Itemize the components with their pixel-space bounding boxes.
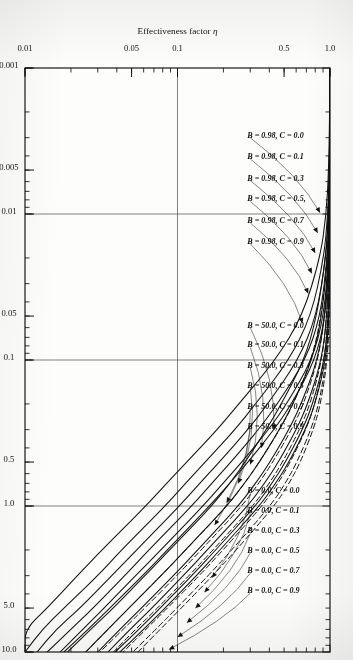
curve-annotation: B = 0.0, C = 0.5 <box>246 546 299 555</box>
x-tick-label: 1.0 <box>4 498 15 508</box>
curve-annotation: B = 0.0, C = 0.9 <box>246 586 299 595</box>
y-tick-label: 1.0 <box>325 43 336 53</box>
chart-svg: 0.0010.0050.010.050.10.51.05.010.01.00.5… <box>0 0 353 660</box>
curve-annotation: B = 0.98, C = 0.5, <box>246 194 305 203</box>
curve-annotation: B = 0.98, C = 0.7 <box>246 216 304 225</box>
curve-annotation: B = 50.0, C = 0.9 <box>246 422 303 431</box>
curve-annotation: B = 50.0, C = 0.1 <box>246 340 303 349</box>
x-tick-label: 0.005 <box>0 162 19 172</box>
curve-annotation: B = 50.0, C = 0.3 <box>246 361 303 370</box>
rotated-figure-container: 0.0010.0050.010.050.10.51.05.010.01.00.5… <box>0 0 353 660</box>
curve-annotation: B = 0.0, C = 0.3 <box>246 526 299 535</box>
curve-annotation: B = 0.98, C = 0.1 <box>246 152 303 161</box>
y-tick-label: 0.05 <box>124 43 139 53</box>
y-tick-label: 0.01 <box>17 43 32 53</box>
x-tick-label: 10.0 <box>1 644 16 654</box>
curve-annotation: B = 50.0, C = 0.0 <box>246 321 303 330</box>
y-axis-title: Effectiveness factor η <box>138 26 218 36</box>
figure-page: 0.0010.0050.010.050.10.51.05.010.01.00.5… <box>0 0 353 660</box>
y-tick-label: 0.1 <box>172 43 183 53</box>
chart-background <box>0 0 353 660</box>
curve-annotation: B = 0.0, C = 0.0 <box>246 486 299 495</box>
x-tick-label: 0.05 <box>1 308 16 318</box>
curve-annotation: B = 0.98, C = 0.9 <box>246 237 303 246</box>
curve-annotation: B = 0.98, C = 0.3 <box>246 174 303 183</box>
curve-annotation: B = 0.0, C = 0.7 <box>246 566 300 575</box>
curve-annotation: B = 0.0, C = 0.1 <box>246 506 299 515</box>
curve-annotation: B = 50.0, C = 0.7 <box>246 402 304 411</box>
x-tick-label: 0.01 <box>1 206 16 216</box>
y-tick-label: 0.5 <box>279 43 290 53</box>
curve-annotation: B = 0.98, C = 0.0 <box>246 131 303 140</box>
x-tick-label: 5.0 <box>4 600 15 610</box>
x-tick-label: 0.5 <box>4 454 15 464</box>
x-tick-label: 0.001 <box>0 60 19 70</box>
x-tick-label: 0.1 <box>4 352 15 362</box>
chart-canvas: 0.0010.0050.010.050.10.51.05.010.01.00.5… <box>0 0 353 660</box>
curve-annotation: B = 50.0, C = 0.5 <box>246 381 303 390</box>
